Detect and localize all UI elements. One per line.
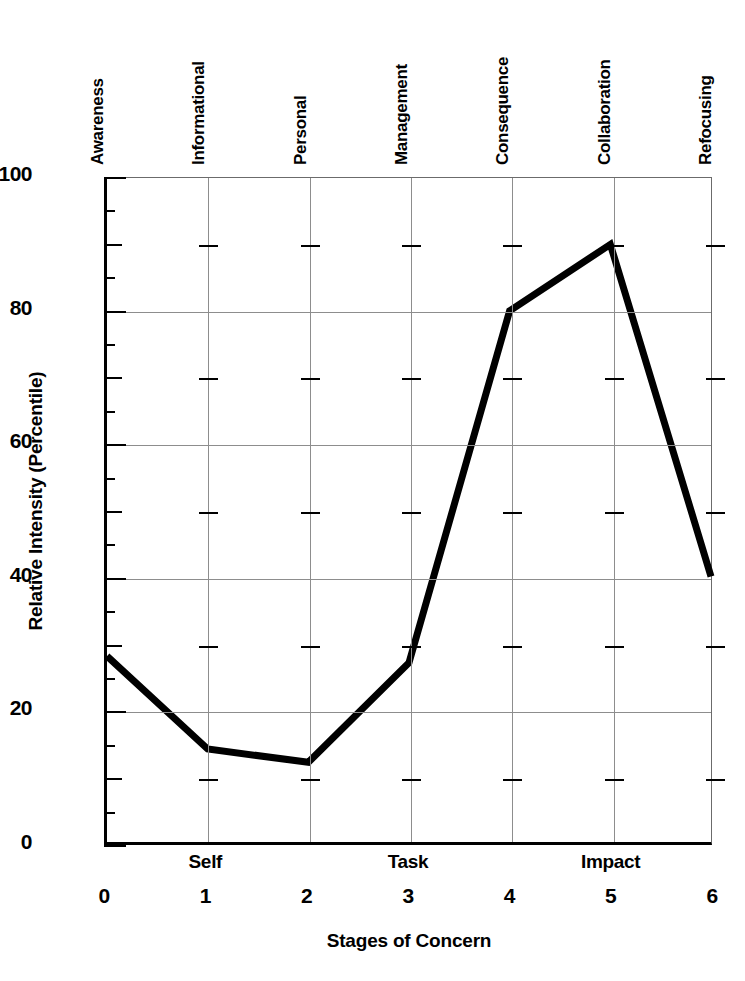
minor-tick-mark: [402, 512, 421, 514]
x-axis-tick-label: 0: [98, 884, 109, 908]
plot-area: [104, 177, 712, 845]
minor-tick-mark: [503, 779, 522, 781]
y-axis-tick: [104, 845, 126, 847]
horizontal-gridline: [107, 312, 711, 313]
minor-tick-mark: [301, 245, 320, 247]
x-axis-tick-label: 2: [301, 884, 312, 908]
minor-tick-mark: [605, 245, 624, 247]
minor-tick-mark: [301, 512, 320, 514]
x-axis-tick-label: 5: [605, 884, 616, 908]
y-axis-tick: [104, 444, 126, 446]
stage-label: Refocusing: [697, 75, 714, 165]
stage-label-slot: Awareness: [106, 164, 107, 165]
minor-tick-mark: [605, 646, 624, 648]
vertical-gridline: [614, 178, 615, 842]
minor-tick-mark: [199, 512, 218, 514]
x-axis-group-labels: SelfTaskImpact: [0, 851, 745, 881]
y-axis-tick: [104, 578, 126, 580]
y-axis-tick: [104, 244, 122, 246]
minor-tick-mark: [199, 378, 218, 380]
y-axis-tick: [104, 544, 115, 546]
y-axis-tick-label: 60: [0, 429, 32, 453]
minor-tick-mark: [402, 378, 421, 380]
x-axis-group-label: Task: [388, 851, 429, 873]
y-axis-tick: [104, 478, 115, 480]
y-axis-tick: [104, 812, 115, 814]
stage-label: Awareness: [89, 78, 106, 165]
y-axis-tick: [104, 277, 115, 279]
vertical-gridline: [310, 178, 311, 842]
x-axis-tick-labels: 0123456: [0, 884, 745, 918]
stage-label: Management: [393, 64, 410, 165]
y-axis-tick-label: 80: [0, 296, 32, 320]
horizontal-gridline: [107, 579, 711, 580]
minor-tick-mark: [402, 646, 421, 648]
y-axis-tick: [104, 377, 122, 379]
minor-tick-mark: [301, 378, 320, 380]
horizontal-gridline: [107, 445, 711, 446]
minor-tick-mark: [199, 245, 218, 247]
y-axis-tick: [104, 678, 115, 680]
y-axis-ticks: [104, 177, 134, 845]
y-axis-tick-label: 100: [0, 162, 32, 186]
y-axis-tick: [104, 411, 115, 413]
chart-figure: AwarenessInformationalPersonalManagement…: [0, 0, 745, 981]
minor-tick-mark: [706, 512, 725, 514]
minor-tick-mark: [503, 245, 522, 247]
minor-tick-mark: [706, 646, 725, 648]
minor-tick-mark: [402, 245, 421, 247]
data-series-line: [107, 178, 711, 842]
stage-label-slot: Consequence: [511, 164, 512, 165]
stage-label-slot: Informational: [207, 164, 208, 165]
y-axis-tick: [104, 778, 122, 780]
minor-tick-mark: [706, 245, 725, 247]
y-axis-tick-label: 20: [0, 696, 32, 720]
stage-label: Collaboration: [596, 59, 613, 165]
minor-tick-mark: [503, 378, 522, 380]
y-axis-tick: [104, 745, 115, 747]
stage-labels-row: AwarenessInformationalPersonalManagement…: [0, 0, 745, 172]
minor-tick-mark: [199, 779, 218, 781]
minor-tick-mark: [503, 512, 522, 514]
minor-tick-mark: [706, 779, 725, 781]
x-axis-tick-label: 4: [504, 884, 515, 908]
minor-tick-mark: [706, 378, 725, 380]
stage-label: Consequence: [494, 57, 511, 165]
y-axis-tick: [104, 177, 126, 179]
y-axis-tick: [104, 210, 115, 212]
minor-tick-mark: [199, 646, 218, 648]
x-axis-title: Stages of Concern: [104, 930, 714, 952]
x-axis-group-label: Impact: [581, 851, 640, 873]
minor-tick-mark: [605, 512, 624, 514]
line-path: [107, 244, 711, 762]
y-axis-tick: [104, 611, 115, 613]
x-axis-group-label: Self: [189, 851, 223, 873]
horizontal-gridline: [107, 712, 711, 713]
x-axis-tick-label: 3: [402, 884, 413, 908]
minor-tick-mark: [503, 646, 522, 648]
y-axis-title: Relative Intensity (Percentile): [25, 301, 47, 701]
stage-label: Informational: [190, 61, 207, 165]
stage-label: Personal: [292, 96, 309, 165]
vertical-gridline: [411, 178, 412, 842]
stage-label-slot: Personal: [309, 164, 310, 165]
stage-label-slot: Management: [410, 164, 411, 165]
stage-label-slot: Refocusing: [714, 164, 715, 165]
y-axis-tick: [104, 311, 126, 313]
x-axis-tick-label: 6: [706, 884, 717, 908]
minor-tick-mark: [605, 378, 624, 380]
vertical-gridline: [512, 178, 513, 842]
minor-tick-mark: [301, 779, 320, 781]
minor-tick-mark: [605, 779, 624, 781]
x-axis-tick-label: 1: [200, 884, 211, 908]
y-axis-tick: [104, 344, 115, 346]
y-axis-tick-label: 0: [0, 830, 32, 854]
minor-tick-mark: [301, 646, 320, 648]
y-axis-tick-label: 40: [0, 563, 32, 587]
vertical-gridline: [208, 178, 209, 842]
y-axis-tick: [104, 511, 122, 513]
stage-label-slot: Collaboration: [613, 164, 614, 165]
minor-tick-mark: [402, 779, 421, 781]
y-axis-tick: [104, 645, 122, 647]
y-axis-tick: [104, 711, 126, 713]
